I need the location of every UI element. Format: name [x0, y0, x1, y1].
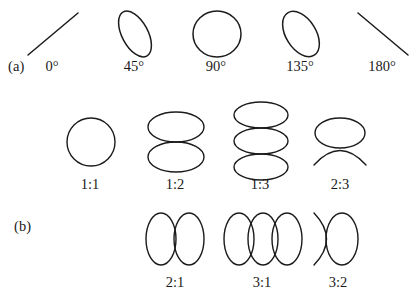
shape-phase-180: [352, 8, 414, 60]
caption-ratio-1-1: 1:1: [81, 176, 100, 193]
shape-ratio-1-3: [228, 100, 294, 182]
caption-ratio-3-1: 3:1: [253, 274, 272, 291]
row-label-b: (b): [14, 218, 31, 235]
caption-phase-180: 180°: [368, 58, 396, 75]
shape-ratio-2-1: [140, 208, 210, 270]
caption-phase-0: 0°: [45, 58, 58, 75]
lissajous-figure-panel: (a) 0° 45° 90° 135° 180° 1:1 1:2 1:3: [0, 0, 418, 298]
shape-ratio-3-1: [220, 208, 306, 270]
caption-phase-90: 90°: [206, 58, 226, 75]
shape-ratio-1-2: [142, 108, 210, 176]
shape-ratio-1-1: [60, 113, 122, 171]
caption-phase-45: 45°: [124, 58, 144, 75]
row-label-a: (a): [8, 58, 24, 75]
shape-phase-0: [22, 8, 84, 60]
caption-phase-135: 135°: [286, 58, 314, 75]
shape-phase-90: [187, 8, 247, 62]
shape-phase-135: [270, 6, 332, 62]
caption-ratio-3-2: 3:2: [329, 274, 348, 291]
caption-ratio-2-3: 2:3: [331, 176, 350, 193]
caption-ratio-1-3: 1:3: [251, 176, 270, 193]
caption-ratio-1-2: 1:2: [166, 176, 185, 193]
caption-ratio-2-1: 2:1: [166, 274, 185, 291]
shape-ratio-3-2: [308, 208, 370, 270]
shape-phase-45: [104, 6, 166, 62]
shape-ratio-2-3: [306, 112, 374, 174]
